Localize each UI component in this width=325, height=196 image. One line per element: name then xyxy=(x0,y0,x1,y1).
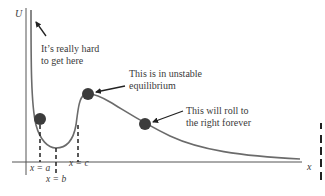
annotation-roll-line2: the right forever xyxy=(186,117,252,128)
potential-energy-diagram: U x x = a x = b x = c It’s really hard t… xyxy=(0,0,325,196)
marker-label-c: x = c xyxy=(68,158,89,168)
marker-label-a: x = a xyxy=(29,163,50,173)
annotation-hard-line1: It’s really hard xyxy=(41,43,99,54)
ball-peak xyxy=(82,88,94,100)
marker-label-b: x = b xyxy=(45,174,66,184)
annotation-roll-line1: This will roll to xyxy=(186,105,249,116)
arrow-hard xyxy=(36,22,46,36)
ball-slope xyxy=(139,118,151,130)
y-axis-label: U xyxy=(15,8,23,19)
ball-left-wall xyxy=(34,113,46,125)
annotation-unstable-line2: equilibrium xyxy=(129,80,176,91)
annotation-unstable-line1: This is in unstable xyxy=(129,68,203,79)
cropped-text-fragments xyxy=(320,123,322,180)
annotation-hard-line2: to get here xyxy=(41,55,84,66)
arrow-unstable xyxy=(96,86,125,92)
arrow-roll xyxy=(153,111,183,122)
x-axis-label: x xyxy=(306,161,312,172)
